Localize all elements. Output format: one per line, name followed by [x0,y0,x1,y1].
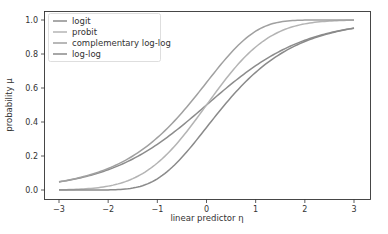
chart-canvas: −3−2−10123 0.00.20.40.60.81.0 linear pre… [0,0,388,234]
x-tick-label: 2 [302,205,307,214]
x-tick-label: −1 [151,205,163,214]
x-tick-label: 1 [253,205,258,214]
y-tick-label: 0.6 [25,84,38,93]
legend-label: logit [72,16,91,26]
legend: logitprobitcomplementary log-loglog-log [49,14,171,62]
legend-label: probit [72,27,98,37]
legend-label: complementary log-log [72,38,171,48]
x-tick-label: −3 [53,205,65,214]
y-tick-label: 0.0 [25,186,38,195]
x-tick-label: 3 [351,205,356,214]
y-tick-label: 0.4 [25,118,38,127]
y-tick-label: 1.0 [25,16,38,25]
x-tick-label: −2 [102,205,114,214]
y-axis-ticks: 0.00.20.40.60.81.0 [25,16,44,195]
y-tick-label: 0.8 [25,50,38,59]
y-axis-label: probability μ [4,78,14,132]
y-tick-label: 0.2 [25,152,38,161]
legend-label: log-log [72,49,101,59]
x-axis-ticks: −3−2−10123 [53,200,356,215]
x-axis-label: linear predictor η [170,213,243,223]
